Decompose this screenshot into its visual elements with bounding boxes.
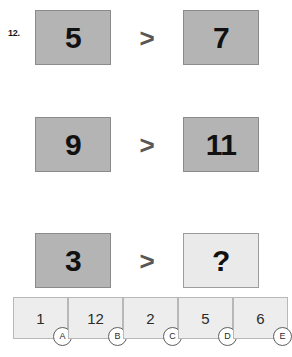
answer-option-value: 2	[146, 311, 154, 326]
tile-value: 3	[65, 246, 81, 276]
answer-option-c[interactable]: 2 C	[123, 297, 178, 339]
question-mark-icon: ?	[212, 246, 230, 276]
answer-option-letter[interactable]: E	[273, 327, 292, 346]
equation-row: 9 > 11	[0, 117, 292, 173]
answer-option-e[interactable]: 6 E	[233, 297, 288, 339]
answer-option-value: 5	[201, 311, 209, 326]
question-sheet: 12. 5 > 7 9 > 11 3 > ?	[0, 0, 292, 357]
equation-right-tile: 11	[183, 117, 259, 172]
tile-value: 7	[213, 23, 229, 53]
answer-option-value: 12	[87, 311, 104, 326]
tile-value: 5	[65, 23, 81, 53]
answer-option-value: 6	[256, 311, 264, 326]
greater-than-icon: >	[139, 25, 154, 51]
tile-value: 11	[206, 130, 237, 160]
answer-options: 1 A 12 B 2 C 5 D 6 E	[0, 297, 292, 357]
answer-option-b[interactable]: 12 B	[68, 297, 123, 339]
answer-option-d[interactable]: 5 D	[178, 297, 233, 339]
answer-option-a[interactable]: 1 A	[13, 297, 68, 339]
equation-left-tile: 9	[35, 117, 111, 172]
comparison-operator: >	[130, 10, 164, 65]
comparison-operator: >	[130, 117, 164, 172]
comparison-operator: >	[130, 233, 164, 288]
missing-value-tile: ?	[183, 233, 259, 288]
greater-than-icon: >	[139, 132, 154, 158]
greater-than-icon: >	[139, 248, 154, 274]
equation-row: 5 > 7	[0, 10, 292, 66]
equation-left-tile: 3	[35, 233, 111, 288]
equation-right-tile: 7	[183, 10, 259, 65]
tile-value: 9	[65, 130, 81, 160]
equation-row: 3 > ?	[0, 233, 292, 289]
equation-left-tile: 5	[35, 10, 111, 65]
answer-option-value: 1	[36, 311, 44, 326]
